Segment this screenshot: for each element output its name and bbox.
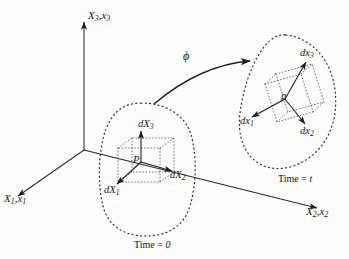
reference-time-label: Time = 0 bbox=[134, 240, 170, 250]
dX3-label: dX3 bbox=[138, 119, 153, 131]
deformation-figure: X3,x3 X1,x1 X2,x2 ϕ P dX3 dX2 dX1 Time =… bbox=[0, 0, 349, 259]
reference-point-label: P bbox=[133, 155, 139, 166]
deformation-map-symbol: ϕ bbox=[183, 50, 189, 62]
dX1-label: dX1 bbox=[104, 185, 119, 197]
figure-canvas bbox=[0, 0, 349, 259]
dX2-vector bbox=[141, 162, 172, 171]
deformed-time-label: Time = t bbox=[278, 174, 312, 184]
x1-axis-line bbox=[18, 150, 84, 196]
dX2-label: dX2 bbox=[170, 170, 185, 182]
deformed-vectors bbox=[252, 62, 306, 124]
dx3-vector bbox=[285, 62, 306, 99]
reference-vectors bbox=[117, 131, 172, 184]
x3-axis-label: X3,x3 bbox=[88, 10, 110, 23]
dx1-vector bbox=[252, 99, 285, 117]
reference-time-prefix: Time = bbox=[134, 239, 165, 250]
deformed-point-label: p bbox=[281, 91, 286, 102]
deformed-material-cell bbox=[265, 64, 324, 122]
dx2-label: dx2 bbox=[300, 126, 314, 138]
dx1-label: dx1 bbox=[240, 116, 254, 128]
dx3-label: dx3 bbox=[300, 48, 314, 60]
x2-axis-label: X2,x2 bbox=[306, 206, 328, 219]
deformed-time-prefix: Time = bbox=[278, 173, 309, 184]
x1-axis-label: X1,x1 bbox=[4, 193, 26, 206]
global-axes bbox=[18, 22, 317, 208]
reference-time-value: 0 bbox=[165, 239, 170, 250]
deformation-map-arrow bbox=[154, 61, 250, 104]
deformed-time-value: t bbox=[309, 173, 312, 184]
